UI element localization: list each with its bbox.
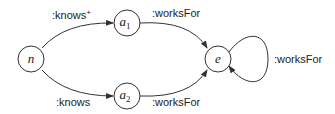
edge-n-a1 — [42, 23, 113, 48]
node-n: n — [18, 46, 44, 72]
node-e: e — [205, 46, 231, 72]
edge-a2-e — [140, 70, 207, 96]
graph-diagram: n a1 a2 e :knows+ :knows :worksFor :work… — [0, 0, 335, 114]
label-worksfor-a1: :worksFor — [152, 7, 201, 19]
label-knows-plus: :knows+ — [52, 8, 91, 21]
node-a1: a1 — [114, 10, 140, 36]
edge-n-a2 — [42, 70, 113, 96]
node-a2: a2 — [114, 83, 140, 109]
svg-text:e: e — [215, 51, 221, 66]
edge-e-loop — [229, 36, 268, 81]
label-worksfor-loop: :worksFor — [274, 53, 323, 65]
svg-text:n: n — [28, 51, 35, 66]
label-worksfor-a2: :worksFor — [152, 96, 201, 108]
label-knows: :knows — [56, 96, 91, 108]
edge-a1-e — [140, 23, 207, 48]
